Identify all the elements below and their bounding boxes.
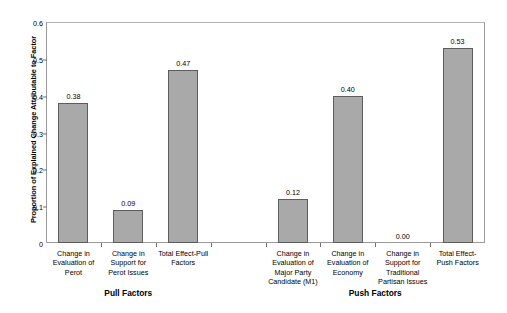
y-tick-label: 0.6 [33,19,47,28]
bar-value-label: 0.00 [396,232,410,241]
bar-chart-figure: Proportion of Explained Change Attributa… [0,0,507,313]
x-axis-category-label: Total Effect-Pull Factors [156,249,211,268]
bar-slot: 0.09 [101,22,156,243]
bar[interactable] [58,103,88,243]
bar-slot: 0.40 [320,22,375,243]
x-axis-category-label: Total Effect- Push Factors [430,249,485,268]
bar-value-label: 0.38 [66,92,80,101]
bar[interactable] [113,210,143,243]
group-label: Pull Factors [46,288,211,298]
bars-layer: 0.380.090.470.120.400.000.53 [46,22,485,243]
bar[interactable] [168,70,198,243]
bar-slot: 0.38 [46,22,101,243]
x-tick-mark [266,243,267,247]
bar[interactable] [278,199,308,243]
bar[interactable] [333,96,363,243]
x-tick-mark [430,243,431,247]
x-axis-category-label: Change in Evaluation of Perot [46,249,101,277]
bar-slot: 0.47 [156,22,211,243]
bar[interactable] [443,48,473,243]
x-axis-category-label: Change in Evaluation of Major Party Cand… [266,249,321,287]
x-tick-mark [156,243,157,247]
bar-value-label: 0.47 [176,59,190,68]
x-tick-mark [101,243,102,247]
group-label: Push Factors [266,288,486,298]
x-axis-category-label: Change in Evaluation of Economy [320,249,375,277]
bar-value-label: 0.53 [451,37,465,46]
bar-slot: 0.12 [266,22,321,243]
x-axis-category-label: Change in Support for Perot Issues [101,249,156,277]
bar-value-label: 0.09 [121,199,135,208]
x-tick-mark [320,243,321,247]
bar-value-label: 0.12 [286,188,300,197]
x-tick-mark [375,243,376,247]
bar-slot: 0.53 [430,22,485,243]
bar-value-label: 0.40 [341,85,355,94]
x-axis-category-label: Change in Support for Traditional Partis… [375,249,430,287]
x-tick-mark [211,243,212,247]
bar-slot: 0.00 [375,22,430,243]
